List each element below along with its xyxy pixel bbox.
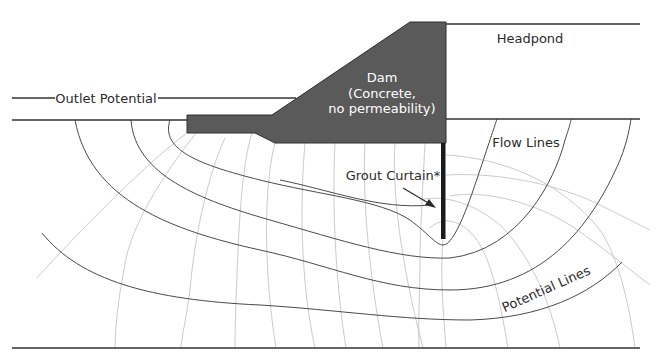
potential-line (334, 143, 346, 348)
dam-label-line2: (Concrete, (348, 86, 416, 101)
potential-line (235, 133, 252, 348)
potential-line (442, 240, 446, 348)
potential-line (266, 143, 276, 348)
arrow-head-icon (425, 199, 436, 208)
dam-label-line1: Dam (367, 70, 398, 85)
potential-line (181, 138, 225, 348)
dam-body (187, 22, 446, 143)
potential-line (37, 133, 187, 278)
diagram-canvas: Headpond Outlet Potential Dam (Concrete,… (0, 0, 661, 355)
flow-lines-label: Flow Lines (492, 135, 560, 150)
potential-line (115, 133, 196, 348)
potential-line (450, 194, 650, 285)
dam-label-line3: no permeability) (328, 101, 435, 116)
grout-curtain-label: Grout Curtain* (346, 168, 441, 183)
headpond-label: Headpond (497, 31, 564, 46)
flow-net-diagram: Headpond Outlet Potential Dam (Concrete,… (0, 0, 661, 355)
potential-line (302, 143, 315, 348)
grout-curtain (441, 143, 446, 239)
outlet-potential-label: Outlet Potential (55, 91, 156, 106)
